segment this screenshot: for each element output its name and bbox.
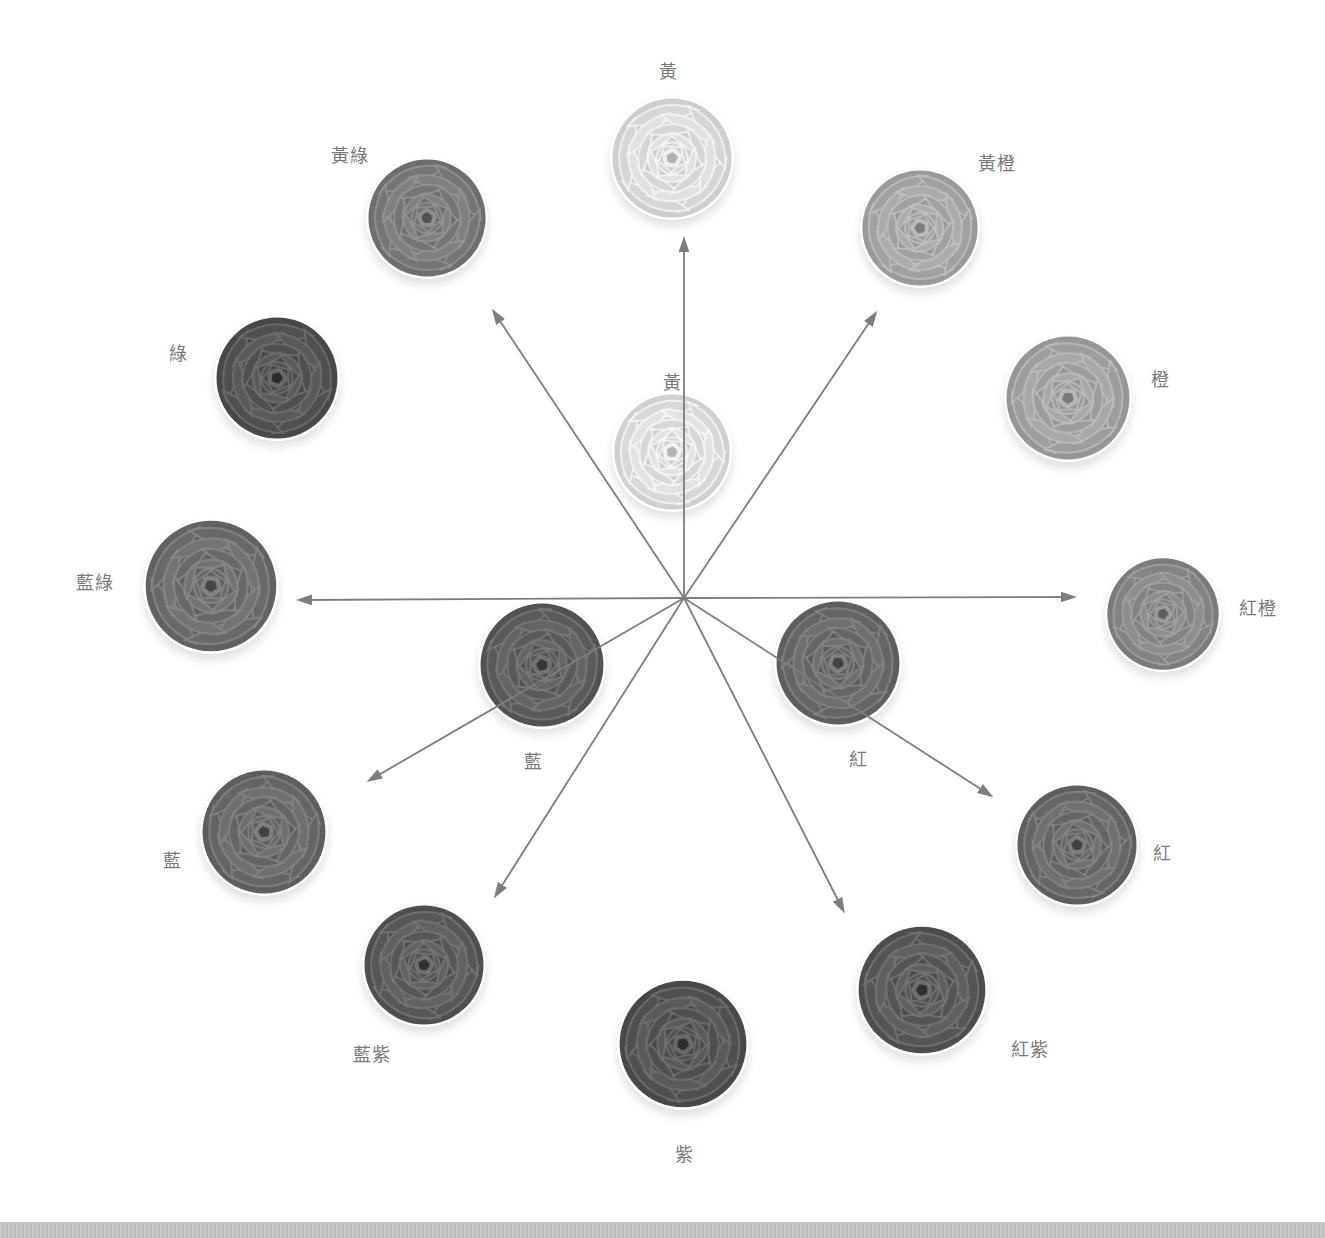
arrow-5 — [370, 598, 684, 780]
arrow-2 — [684, 314, 875, 598]
arrow-3 — [300, 598, 684, 600]
mixing-arrows — [0, 0, 1325, 1238]
arrow-1 — [494, 312, 684, 598]
arrow-4 — [684, 597, 1073, 598]
arrow-7 — [684, 598, 843, 910]
arrow-8 — [684, 598, 990, 795]
color-wheel-diagram: 黃黃橙橙紅橙紅紅紫紫藍紫藍藍綠綠黃綠黃藍紅 — [0, 0, 1325, 1238]
arrow-6 — [496, 598, 684, 895]
